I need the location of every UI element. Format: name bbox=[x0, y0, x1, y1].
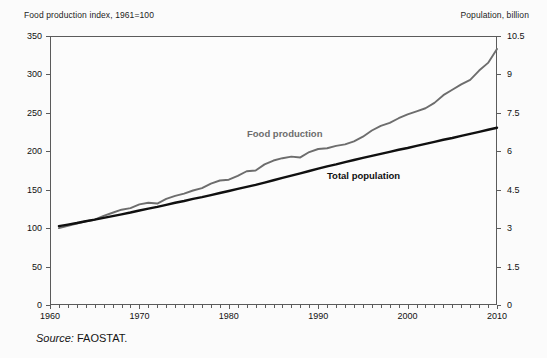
right-axis-tick-label: 3 bbox=[507, 223, 512, 233]
tick-mark bbox=[390, 305, 391, 308]
tick-mark bbox=[354, 305, 355, 308]
tick-mark bbox=[50, 305, 51, 309]
x-axis-tick-label: 1990 bbox=[308, 311, 328, 321]
tick-mark bbox=[122, 305, 123, 308]
tick-mark bbox=[443, 305, 444, 308]
x-axis-tick-labels: 196019701980199020002010 bbox=[50, 311, 497, 327]
tick-mark bbox=[452, 305, 453, 308]
plot-area bbox=[50, 36, 497, 305]
right-axis-tick-labels: 01.534.567.5910.5 bbox=[507, 36, 541, 305]
tick-mark bbox=[46, 151, 50, 152]
tick-mark bbox=[229, 305, 230, 309]
tick-mark bbox=[434, 305, 435, 308]
tick-mark bbox=[256, 305, 257, 308]
left-axis-tick-label: 50 bbox=[32, 262, 42, 272]
tick-mark bbox=[470, 305, 471, 308]
series-lines bbox=[50, 36, 497, 305]
tick-mark bbox=[68, 305, 69, 308]
tick-mark bbox=[95, 305, 96, 308]
tick-mark bbox=[148, 305, 149, 308]
left-axis-tick-label: 250 bbox=[27, 108, 42, 118]
tick-mark bbox=[220, 305, 221, 308]
tick-mark bbox=[282, 305, 283, 308]
tick-mark bbox=[157, 305, 158, 308]
tick-mark bbox=[202, 305, 203, 308]
tick-mark bbox=[497, 113, 501, 114]
right-axis-title: Population, billion bbox=[460, 10, 529, 20]
tick-mark bbox=[211, 305, 212, 308]
tick-mark bbox=[265, 305, 266, 308]
tick-mark bbox=[497, 36, 501, 37]
tick-mark bbox=[238, 305, 239, 308]
tick-mark bbox=[497, 305, 498, 309]
tick-mark bbox=[461, 305, 462, 308]
series-label-total-population: Total population bbox=[327, 170, 400, 181]
tick-mark bbox=[300, 305, 301, 308]
tick-mark bbox=[139, 305, 140, 309]
tick-mark bbox=[59, 305, 60, 308]
x-axis-tick-label: 1960 bbox=[40, 311, 60, 321]
x-axis-tick-label: 2000 bbox=[398, 311, 418, 321]
right-axis-tick-label: 4.5 bbox=[507, 185, 520, 195]
tick-mark bbox=[417, 305, 418, 308]
source-value: FAOSTAT. bbox=[77, 332, 127, 344]
tick-mark bbox=[46, 228, 50, 229]
x-axis-tick-label: 2010 bbox=[487, 311, 507, 321]
tick-mark bbox=[497, 74, 501, 75]
right-axis-tick-label: 6 bbox=[507, 146, 512, 156]
tick-mark bbox=[274, 305, 275, 308]
tick-mark bbox=[104, 305, 105, 308]
right-axis-tick-label: 1.5 bbox=[507, 262, 520, 272]
x-axis-tick-label: 1970 bbox=[129, 311, 149, 321]
tick-mark bbox=[46, 74, 50, 75]
tick-mark bbox=[345, 305, 346, 308]
tick-mark bbox=[46, 267, 50, 268]
left-axis-tick-label: 100 bbox=[27, 223, 42, 233]
left-axis-tick-label: 300 bbox=[27, 69, 42, 79]
total-population-line bbox=[59, 128, 497, 226]
left-axis-tick-labels: 050100150200250300350 bbox=[14, 36, 42, 305]
tick-mark bbox=[488, 305, 489, 308]
left-axis-tick-label: 150 bbox=[27, 185, 42, 195]
left-axis-tick-label: 200 bbox=[27, 146, 42, 156]
left-axis-tick-label: 0 bbox=[37, 300, 42, 310]
tick-mark bbox=[497, 151, 501, 152]
right-axis-tick-label: 10.5 bbox=[507, 31, 525, 41]
tick-mark bbox=[184, 305, 185, 308]
tick-mark bbox=[399, 305, 400, 308]
tick-mark bbox=[408, 305, 409, 309]
left-axis-tick-label: 350 bbox=[27, 31, 42, 41]
tick-mark bbox=[86, 305, 87, 308]
tick-mark bbox=[318, 305, 319, 309]
tick-mark bbox=[46, 36, 50, 37]
right-axis-tick-label: 7.5 bbox=[507, 108, 520, 118]
x-axis-tick-label: 1980 bbox=[219, 311, 239, 321]
tick-mark bbox=[193, 305, 194, 308]
tick-mark bbox=[336, 305, 337, 308]
right-axis-tick-label: 0 bbox=[507, 300, 512, 310]
tick-mark bbox=[77, 305, 78, 308]
tick-mark bbox=[425, 305, 426, 308]
right-axis-tick-label: 9 bbox=[507, 69, 512, 79]
left-axis-title: Food production index, 1961=100 bbox=[24, 10, 154, 20]
tick-mark bbox=[372, 305, 373, 308]
series-label-food-production: Food production bbox=[247, 128, 322, 139]
tick-mark bbox=[175, 305, 176, 308]
tick-mark bbox=[113, 305, 114, 308]
tick-mark bbox=[497, 228, 501, 229]
tick-mark bbox=[46, 113, 50, 114]
tick-mark bbox=[309, 305, 310, 308]
tick-mark bbox=[130, 305, 131, 308]
tick-mark bbox=[363, 305, 364, 308]
tick-mark bbox=[166, 305, 167, 308]
chart-figure: Food production index, 1961=100 Populati… bbox=[0, 0, 547, 358]
source-note: Source: FAOSTAT. bbox=[36, 332, 127, 344]
tick-mark bbox=[291, 305, 292, 308]
tick-mark bbox=[46, 190, 50, 191]
tick-mark bbox=[497, 190, 501, 191]
tick-mark bbox=[247, 305, 248, 308]
tick-mark bbox=[381, 305, 382, 308]
tick-mark bbox=[327, 305, 328, 308]
tick-mark bbox=[479, 305, 480, 308]
source-prefix: Source: bbox=[36, 332, 74, 344]
